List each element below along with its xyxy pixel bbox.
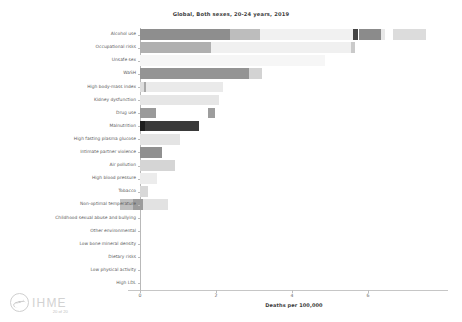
ihme-logo-text: IHME xyxy=(32,296,67,310)
y-axis-label: Malnutrition xyxy=(110,124,136,128)
y-axis-tick xyxy=(138,270,141,271)
chart-container: Global, Both sexes, 20-24 years, 2019 Al… xyxy=(0,0,462,322)
bar-segment[interactable] xyxy=(146,82,222,93)
chart-title: Global, Both sexes, 20-24 years, 2019 xyxy=(0,11,462,17)
bar-segment[interactable] xyxy=(351,42,355,53)
bar-row[interactable] xyxy=(140,28,448,41)
bar-row[interactable] xyxy=(140,277,448,290)
y-axis-tick xyxy=(138,244,141,245)
y-axis-label: High body-mass index xyxy=(87,85,136,89)
y-axis-tick xyxy=(138,152,141,153)
y-axis-tick xyxy=(138,113,141,114)
bar-row[interactable] xyxy=(140,264,448,277)
y-axis-label: Low physical activity xyxy=(90,268,136,272)
bar-segment[interactable] xyxy=(143,199,168,210)
bar-row[interactable] xyxy=(140,80,448,93)
bar-segment[interactable] xyxy=(140,29,230,40)
y-axis-label: Tobacco xyxy=(118,189,136,193)
x-axis-line xyxy=(128,290,448,291)
y-axis-tick xyxy=(138,283,141,284)
y-axis-tick xyxy=(138,257,141,258)
ihme-globe-icon xyxy=(10,293,29,312)
y-axis-label: Intimate partner violence xyxy=(80,150,136,154)
y-axis-tick xyxy=(138,205,141,206)
y-axis-tick xyxy=(138,35,141,36)
y-axis-tick xyxy=(138,192,141,193)
y-axis-label: Alcohol use xyxy=(111,32,136,36)
ihme-wordmark: IHME 20 of 20 xyxy=(32,297,67,309)
x-axis-tick-label: 2 xyxy=(215,294,218,299)
bar-row[interactable] xyxy=(140,120,448,133)
bar-segment[interactable] xyxy=(359,29,381,40)
y-axis-label: Other environmental xyxy=(90,229,136,233)
x-axis-tick-label: 6 xyxy=(367,294,370,299)
bar-segment[interactable] xyxy=(140,160,175,171)
y-axis-label: High fasting plasma glucose xyxy=(74,137,136,141)
bar-row[interactable] xyxy=(140,54,448,67)
ihme-logo: IHME 20 of 20 xyxy=(10,293,67,312)
plot-area xyxy=(140,28,448,290)
bar-segment[interactable] xyxy=(140,95,219,106)
bar-segment[interactable] xyxy=(140,134,180,145)
bar-segment[interactable] xyxy=(140,42,211,53)
y-axis-tick xyxy=(138,231,141,232)
x-axis-title: Deaths per 100,000 xyxy=(140,302,448,308)
bar-row[interactable] xyxy=(140,185,448,198)
y-axis-tick xyxy=(138,179,141,180)
bar-segment[interactable] xyxy=(393,29,426,40)
bar-row[interactable] xyxy=(140,211,448,224)
bar-row[interactable] xyxy=(140,198,448,211)
bar-row[interactable] xyxy=(140,133,448,146)
y-axis-tick xyxy=(138,48,141,49)
y-axis-tick xyxy=(138,61,141,62)
bar-segment[interactable] xyxy=(249,68,262,79)
bar-segment[interactable] xyxy=(140,55,325,66)
y-axis-label: High blood pressure xyxy=(92,176,136,180)
y-axis-label: Air pollution xyxy=(109,163,136,167)
bar-row[interactable] xyxy=(140,251,448,264)
bar-segment[interactable] xyxy=(140,108,156,119)
y-axis-label: Unsafe sex xyxy=(112,58,136,62)
y-axis-tick xyxy=(138,126,141,127)
x-axis-tick-label: 4 xyxy=(291,294,294,299)
y-axis-label: Childhood sexual abuse and bullying xyxy=(55,216,136,220)
bar-segment[interactable] xyxy=(145,121,199,132)
bar-segment[interactable] xyxy=(230,29,260,40)
bar-segment[interactable] xyxy=(211,42,351,53)
bar-row[interactable] xyxy=(140,238,448,251)
y-axis-label: Kidney dysfunction xyxy=(94,98,136,102)
y-axis-label: Non-optimal temperature xyxy=(80,202,136,206)
bar-segment[interactable] xyxy=(140,68,249,79)
bar-row[interactable] xyxy=(140,225,448,238)
bar-row[interactable] xyxy=(140,159,448,172)
bar-segment[interactable] xyxy=(260,29,353,40)
page-indicator: 20 of 20 xyxy=(53,310,68,314)
y-axis-label: Low bone mineral density xyxy=(79,242,136,246)
bar-segment[interactable] xyxy=(381,29,386,40)
bar-row[interactable] xyxy=(140,146,448,159)
y-axis-label: High LDL xyxy=(116,281,136,285)
bar-row[interactable] xyxy=(140,41,448,54)
y-axis-tick xyxy=(138,139,141,140)
bar-segment[interactable] xyxy=(140,147,162,158)
y-axis-tick xyxy=(138,166,141,167)
bar-row[interactable] xyxy=(140,107,448,120)
bar-segment[interactable] xyxy=(140,173,157,184)
y-axis-tick xyxy=(138,100,141,101)
bar-segment[interactable] xyxy=(208,108,216,119)
y-axis-label: Drug use xyxy=(116,111,136,115)
y-axis-label: WaSH xyxy=(123,71,136,75)
y-axis-tick xyxy=(138,218,141,219)
x-axis-tick-label: 0 xyxy=(139,294,142,299)
y-axis-tick xyxy=(138,74,141,75)
bar-row[interactable] xyxy=(140,94,448,107)
bar-row[interactable] xyxy=(140,172,448,185)
bar-segment[interactable] xyxy=(140,186,148,197)
y-axis-label: Dietary risks xyxy=(108,255,136,259)
y-axis-tick xyxy=(138,87,141,88)
y-axis-label: Occupational risks xyxy=(96,45,136,49)
bar-row[interactable] xyxy=(140,67,448,80)
